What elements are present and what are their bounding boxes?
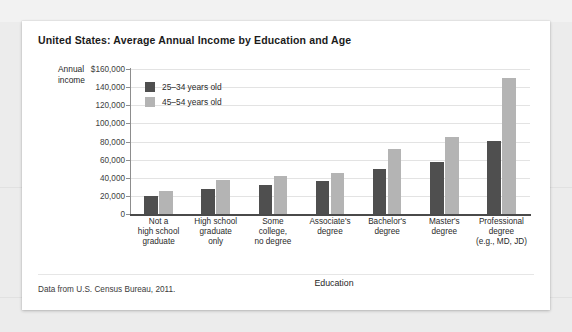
x-axis-category-label-line: no degree <box>244 237 301 247</box>
x-axis-category-label-line: degree <box>416 227 473 237</box>
y-axis-tick-labels: $160,000140,000120,000100,00080,00060,00… <box>70 69 125 214</box>
x-axis-category-label: Professionaldegree(e.g., MD, JD) <box>473 217 530 248</box>
y-axis-tick-label: 120,000 <box>95 101 125 110</box>
bar <box>388 149 402 214</box>
x-axis-category-label: Bachelor'sdegree <box>359 217 416 237</box>
x-axis-category-label-line: degree <box>473 227 530 237</box>
bar <box>373 169 387 214</box>
x-axis-category-label: Master'sdegree <box>416 217 473 237</box>
x-axis-category-label: Associate'sdegree <box>301 217 358 237</box>
gridline <box>130 69 530 70</box>
y-axis-tick-label: 60,000 <box>100 155 125 164</box>
bar <box>201 189 215 214</box>
page-backdrop-top <box>0 0 572 22</box>
y-axis-tick-label: 140,000 <box>95 83 125 92</box>
x-axis-category-label: Not ahigh schoolgraduate <box>130 217 187 248</box>
y-axis-line <box>130 68 131 215</box>
x-axis-category-label-line: Not a <box>130 217 187 227</box>
bar <box>445 137 459 214</box>
x-axis-category-label-line: Professional <box>473 217 530 227</box>
x-axis-category-label-line: only <box>187 237 244 247</box>
bar <box>502 78 516 214</box>
x-axis-category-label-line: Master's <box>416 217 473 227</box>
bar <box>487 141 501 214</box>
legend-swatch-icon <box>145 82 155 92</box>
bar <box>159 191 173 214</box>
x-axis-line <box>130 214 531 216</box>
bar <box>144 196 158 214</box>
x-axis-category-label-line: college, <box>244 227 301 237</box>
chart-title: United States: Average Annual Income by … <box>38 34 351 46</box>
x-axis-category-label: Somecollege,no degree <box>244 217 301 248</box>
legend-item: 25–34 years old <box>145 80 222 93</box>
x-axis-category-label-line: High school <box>187 217 244 227</box>
x-axis-category-label-line: degree <box>301 227 358 237</box>
x-axis-category-label-line: Associate's <box>301 217 358 227</box>
legend-swatch-icon <box>145 97 155 107</box>
x-axis-category-label-line: degree <box>359 227 416 237</box>
y-axis-tick-label: 20,000 <box>100 191 125 200</box>
chart-card: United States: Average Annual Income by … <box>22 21 550 310</box>
y-axis-tick-label: 0 <box>120 210 125 219</box>
x-axis-category-label-line: graduate <box>187 227 244 237</box>
y-axis-tick-label: 80,000 <box>100 137 125 146</box>
bar <box>316 181 330 214</box>
gridline <box>130 160 530 161</box>
y-axis-tick-label: $160,000 <box>91 65 125 74</box>
x-axis-category-label: High schoolgraduateonly <box>187 217 244 248</box>
x-axis-category-label-line: Bachelor's <box>359 217 416 227</box>
gridline <box>130 142 530 143</box>
y-axis-tick-label: 40,000 <box>100 173 125 182</box>
x-axis-category-label-line: graduate <box>130 237 187 247</box>
footer-divider <box>38 274 534 275</box>
bar <box>259 185 273 214</box>
bar <box>331 173 345 214</box>
source-note: Data from U.S. Census Bureau, 2011. <box>38 285 175 294</box>
x-axis-category-labels: Not ahigh schoolgraduateHigh schoolgradu… <box>130 217 530 275</box>
x-axis-category-label-line: high school <box>130 227 187 237</box>
bar <box>216 180 230 214</box>
bar <box>274 176 288 214</box>
x-axis-category-label-line: (e.g., MD, JD) <box>473 237 530 247</box>
legend-label: 25–34 years old <box>162 82 222 92</box>
y-axis-tick-label: 100,000 <box>95 119 125 128</box>
bar <box>430 162 444 214</box>
legend-item: 45–54 years old <box>145 95 222 108</box>
legend-label: 45–54 years old <box>162 97 222 107</box>
legend: 25–34 years old 45–54 years old <box>145 80 222 110</box>
gridline <box>130 123 530 124</box>
x-axis-category-label-line: Some <box>244 217 301 227</box>
